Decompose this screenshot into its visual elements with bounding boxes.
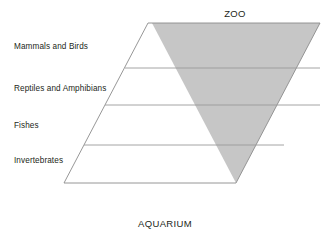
tier-label-reptiles-and-amphibians: Reptiles and Amphibians: [14, 84, 106, 93]
tier-label-fishes: Fishes: [14, 121, 39, 130]
shaded-zoo-triangle: [152, 23, 320, 183]
zoo-label: ZOO: [190, 8, 280, 19]
pyramid-graphic: [0, 0, 333, 239]
aquarium-label: AQUARIUM: [120, 218, 210, 229]
pyramid-diagram: ZOO Mammals and Birds Reptiles and Amphi…: [0, 0, 333, 239]
tier-label-invertebrates: Invertebrates: [14, 156, 63, 165]
tier-label-mammals-and-birds: Mammals and Birds: [14, 42, 88, 51]
